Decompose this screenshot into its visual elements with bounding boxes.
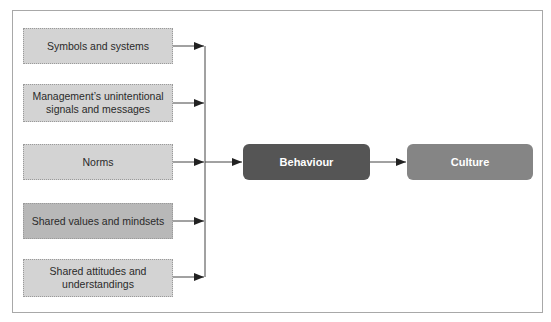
behaviour-label: Behaviour <box>280 156 334 168</box>
source-label: Management’s unintentional signals and m… <box>30 90 166 116</box>
source-label: Symbols and systems <box>47 40 149 53</box>
source-box-management-signals: Management’s unintentional signals and m… <box>23 84 173 122</box>
source-label: Shared values and mindsets <box>32 215 165 228</box>
source-box-shared-attitudes: Shared attitudes and understandings <box>23 259 173 297</box>
culture-label: Culture <box>451 156 490 168</box>
behaviour-node: Behaviour <box>243 144 370 180</box>
source-box-shared-values: Shared values and mindsets <box>23 203 173 239</box>
source-box-norms: Norms <box>23 144 173 180</box>
source-label: Shared attitudes and understandings <box>38 265 158 291</box>
source-label: Norms <box>83 156 114 169</box>
source-box-symbols-systems: Symbols and systems <box>23 28 173 64</box>
culture-node: Culture <box>407 144 533 180</box>
